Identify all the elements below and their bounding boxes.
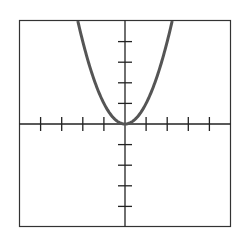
parabola-graph: [0, 0, 237, 243]
